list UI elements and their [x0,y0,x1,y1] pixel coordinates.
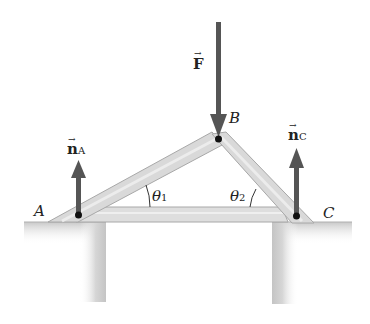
point-B-label: B [229,111,240,126]
theta2-arc [250,189,256,207]
vector-arrow-icon: → [68,135,76,144]
joint-B-dot [215,136,222,143]
vector-arrow-icon: → [194,49,202,58]
joint-C-dot [293,213,300,220]
left-support [24,222,106,302]
force-F-label: → F [193,56,204,72]
vector-arrow-icon: → [289,121,297,130]
truss-drawing [0,0,370,324]
point-A-label: A [34,204,45,219]
theta1-arc [146,185,150,207]
point-C-label: C [323,206,334,221]
theta1-label: θ1 [152,188,167,204]
theta2-label: θ2 [230,188,245,204]
force-F-arrow [210,22,227,137]
normal-force-C-label: → nC [288,127,307,143]
right-support [272,222,352,304]
normal-force-A-label: → nA [67,141,85,157]
truss-diagram: A B C → F → nA → nC θ1 θ2 [0,0,370,324]
horizontal-beam [76,207,288,222]
joint-A-dot [75,212,82,219]
